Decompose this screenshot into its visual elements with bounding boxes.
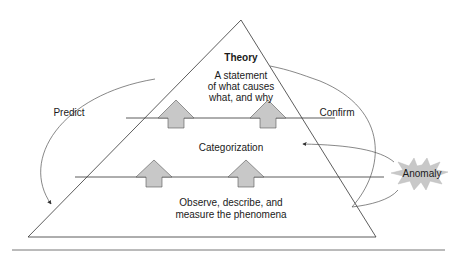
categorization-label: Categorization	[171, 142, 291, 154]
confirm-label: Confirm	[312, 107, 362, 119]
observation-text-line: measure the phenomena	[146, 209, 316, 221]
predict-label: Predict	[44, 107, 94, 119]
observation-text-line: Observe, describe, and	[146, 197, 316, 209]
anomaly-label: Anomaly	[397, 168, 447, 180]
theory-text-line: what, and why	[191, 92, 291, 104]
theory-title: Theory	[191, 52, 291, 64]
